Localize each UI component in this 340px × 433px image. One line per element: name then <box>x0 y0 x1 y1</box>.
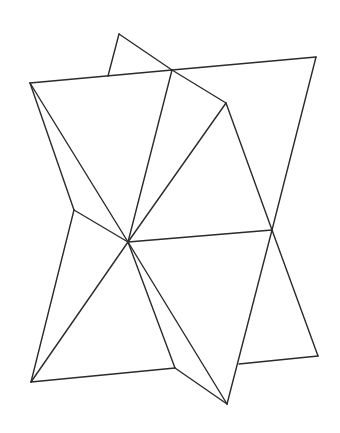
edge-B-H <box>30 83 74 210</box>
edge-J-K <box>175 368 227 404</box>
edge-I-C <box>31 242 128 382</box>
edge-D-C <box>128 103 226 242</box>
folded-star-diagram <box>0 0 340 433</box>
edge-H-C <box>74 210 128 242</box>
edge-C-G <box>128 230 272 242</box>
edge-E-D <box>172 70 226 103</box>
edge-I-J <box>31 368 175 382</box>
edge-G-M <box>272 230 318 356</box>
edge-L-M <box>239 356 318 364</box>
edge-B-C <box>30 83 128 242</box>
edge-C-K <box>128 242 227 404</box>
edge-E-F <box>172 57 316 70</box>
edge-C-J <box>128 242 175 368</box>
edge-E-C <box>128 70 172 242</box>
edge-A-P <box>108 34 119 76</box>
edge-A-E <box>119 34 172 70</box>
edge-H-I <box>31 210 74 382</box>
edge-F-G <box>272 57 316 230</box>
edge-D-G <box>226 103 272 230</box>
edge-G-K <box>227 230 272 404</box>
edge-B-E <box>30 70 172 83</box>
polyhedron-line-drawing <box>0 0 340 433</box>
